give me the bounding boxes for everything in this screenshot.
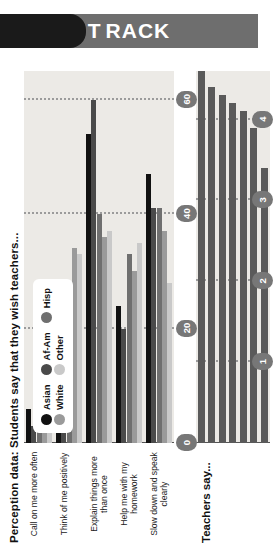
legend-row-2: White Other bbox=[54, 288, 65, 425]
category-label: Explain things more than once bbox=[90, 451, 109, 537]
bar bbox=[107, 231, 112, 443]
legend-label-asian: Asian bbox=[41, 384, 52, 410]
poster: Perception data: Students say that they … bbox=[0, 0, 275, 553]
category-label: Help me with my homework bbox=[120, 451, 139, 537]
legend-swatch-hisp bbox=[41, 312, 52, 323]
category-label: Call on me more often bbox=[30, 451, 40, 537]
axis-tick: 0 bbox=[176, 434, 197, 451]
axis-tick: 3 bbox=[252, 191, 273, 208]
axis-tick: 4 bbox=[252, 111, 273, 128]
axis-tick: 40 bbox=[176, 205, 197, 222]
legend-swatch-asian bbox=[41, 414, 52, 425]
bar bbox=[167, 283, 172, 443]
legend-item-other: Other bbox=[54, 335, 65, 375]
screenshot-viewport: Perception data: Students say that they … bbox=[0, 0, 275, 553]
axis-tick: 2 bbox=[252, 272, 273, 289]
legend-label-other: Other bbox=[54, 335, 65, 360]
bar bbox=[137, 243, 142, 443]
legend-item-white: White bbox=[54, 384, 65, 425]
axis-tick: 1 bbox=[252, 353, 273, 370]
legend-swatch-white bbox=[54, 414, 65, 425]
track-banner-text: TRACK bbox=[0, 14, 258, 48]
legend-swatch-other bbox=[54, 364, 65, 375]
legend-label-hisp: Hisp bbox=[41, 288, 52, 308]
track-banner-initial: T bbox=[88, 19, 106, 42]
gridline bbox=[24, 98, 174, 100]
track-banner: TRACK bbox=[0, 0, 275, 62]
legend-item-asian: Asian bbox=[41, 384, 52, 425]
category-label: Think of me positively bbox=[60, 451, 70, 537]
bottom-chart-title: Teachers say... bbox=[200, 462, 212, 543]
legend-item-afam: Af-Am bbox=[41, 332, 52, 375]
track-banner-rest: RACK bbox=[106, 19, 171, 42]
bar bbox=[198, 71, 205, 443]
bar bbox=[219, 95, 226, 443]
bar bbox=[77, 254, 82, 443]
legend-label-white: White bbox=[54, 384, 65, 410]
legend: Asian Af-Am Hisp White bbox=[33, 279, 73, 433]
category-label: Slow down and speak clearly bbox=[150, 451, 169, 537]
legend-label-afam: Af-Am bbox=[41, 332, 52, 360]
bar bbox=[240, 111, 247, 443]
chart-card: Perception data: Students say that they … bbox=[0, 62, 275, 553]
legend-item-hisp: Hisp bbox=[41, 288, 52, 323]
bar bbox=[229, 103, 236, 443]
legend-row-1: Asian Af-Am Hisp bbox=[41, 288, 52, 425]
bar bbox=[261, 168, 268, 443]
page-title: Perception data: Students say that they … bbox=[8, 233, 20, 543]
legend-swatch-afam bbox=[41, 364, 52, 375]
bar bbox=[208, 87, 215, 443]
axis-tick: 20 bbox=[176, 320, 197, 337]
axis-tick: 60 bbox=[176, 91, 197, 108]
